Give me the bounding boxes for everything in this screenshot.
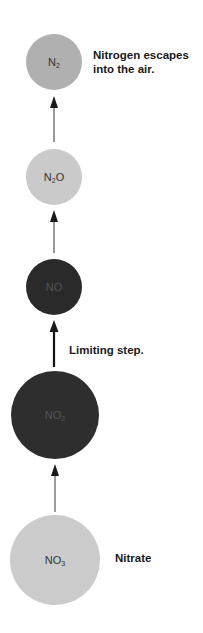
reaction-arrow [50,96,58,142]
reaction-arrow [50,210,58,253]
molecule-formula: NO3 [45,554,65,567]
molecule-node-n2o: N2O [26,149,82,205]
arrowhead-icon [50,96,58,108]
molecule-node-n2: N2 [26,34,82,90]
molecule-formula: NO [46,281,63,293]
molecule-node-no3: NO3 [10,515,100,605]
label-line: Limiting step. [69,343,144,357]
nitrate-label: Nitrate [115,551,151,565]
molecule-formula: N2 [48,56,60,69]
molecule-formula: NO2 [45,409,65,422]
molecule-node-no: NO [26,259,82,315]
arrowhead-icon [50,320,59,332]
denitrification-diagram: N2N2ONONO2NO3 Nitrogen escapesinto the a… [0,0,203,633]
n2-label: Nitrogen escapesinto the air. [93,48,189,76]
label-line: into the air. [93,62,189,76]
reaction-arrow [51,464,59,512]
arrowhead-icon [50,210,58,222]
limiting-step-arrow [50,320,59,367]
molecule-node-no2: NO2 [11,371,99,459]
label-line: Nitrogen escapes [93,48,189,62]
arrowhead-icon [51,464,59,476]
molecule-formula: N2O [44,171,64,184]
limiting-label: Limiting step. [69,343,144,357]
label-line: Nitrate [115,551,151,565]
